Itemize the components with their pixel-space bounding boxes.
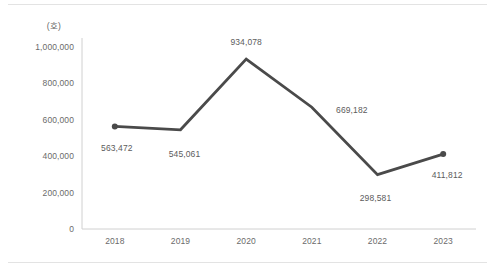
x-axis-tick-label: 2020 [216, 236, 276, 246]
x-axis-tick-label: 2023 [413, 236, 473, 246]
x-axis-tick-label: 2019 [151, 236, 211, 246]
series-polyline [115, 59, 443, 175]
data-point-value-label: 669,182 [336, 105, 367, 115]
y-axis-tick-label: 800,000 [12, 78, 74, 88]
data-point-marker [440, 151, 446, 157]
line-chart: (호) 0200,000400,000600,000800,0001,000,0… [0, 0, 495, 279]
data-point-value-label: 934,078 [230, 37, 261, 47]
chart-page: (호) 0200,000400,000600,000800,0001,000,0… [0, 0, 495, 279]
axis-lines [82, 38, 476, 229]
x-axis-tick-label: 2018 [85, 236, 145, 246]
x-axis-tick-label: 2021 [282, 236, 342, 246]
y-axis-tick-label: 400,000 [12, 151, 74, 161]
x-axis-tick-label: 2022 [348, 236, 408, 246]
y-axis-tick-label: 1,000,000 [12, 42, 74, 52]
y-axis-tick-label: 600,000 [12, 115, 74, 125]
y-axis-tick-label: 0 [12, 224, 74, 234]
data-point-marker [112, 123, 118, 129]
data-point-value-label: 545,061 [169, 149, 200, 159]
y-axis-tick-label: 200,000 [12, 188, 74, 198]
data-point-value-label: 563,472 [101, 143, 132, 153]
data-point-value-label: 411,812 [432, 170, 463, 180]
data-point-value-label: 298,581 [360, 193, 391, 203]
